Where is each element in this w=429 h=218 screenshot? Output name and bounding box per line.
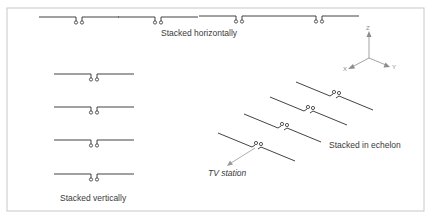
dipole-e-2 [270, 97, 347, 125]
z-arrow-icon [367, 31, 372, 37]
label-stacked-horizontally: Stacked horizontally [161, 28, 238, 38]
dipole-h-3 [199, 16, 279, 23]
label-stacked-in-echelon: Stacked in echelon [329, 140, 401, 150]
dipole-v-4 [54, 174, 134, 181]
tv-station-arrow-icon [227, 161, 233, 167]
xyz-axes: Z X Y [343, 25, 396, 72]
dipole-v-3 [54, 140, 134, 147]
dipole-v-1 [54, 74, 134, 81]
y-arrow-icon [384, 63, 391, 68]
antenna-stacking-diagram: Stacked horizontally Stacked vertically … [0, 0, 429, 218]
dipole-e-3 [244, 114, 321, 142]
axis-z-label: Z [366, 25, 370, 31]
axis-y-label: Y [392, 64, 396, 70]
horizontal-stack [39, 16, 359, 24]
label-stacked-vertically: Stacked vertically [60, 193, 127, 203]
axis-x-label: X [343, 66, 347, 72]
dipole-h-1 [39, 17, 119, 24]
dipole-h-2 [118, 17, 198, 24]
dipole-h-4 [279, 16, 359, 23]
vertical-stack [54, 74, 134, 181]
dipole-e-4 [218, 133, 295, 161]
dipole-v-2 [54, 107, 134, 114]
diagram-frame [7, 8, 424, 211]
tv-station-pointer [227, 148, 255, 166]
x-arrow-icon [348, 64, 355, 69]
label-tv-station: TV station [208, 168, 247, 178]
